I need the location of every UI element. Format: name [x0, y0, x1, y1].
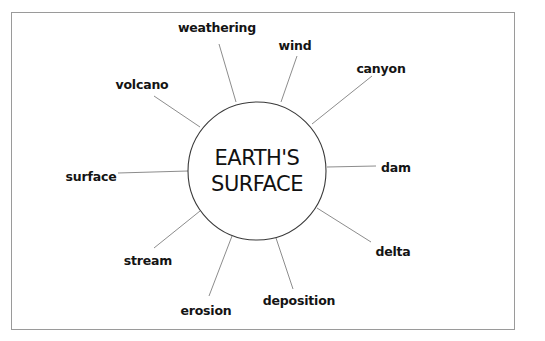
node-wind: wind — [279, 40, 312, 53]
node-dam: dam — [381, 162, 411, 175]
spoke-canyon — [312, 76, 372, 124]
node-canyon: canyon — [356, 63, 405, 76]
spoke-wind — [281, 56, 297, 102]
node-deposition: deposition — [263, 295, 335, 308]
spoke-surface — [118, 171, 188, 173]
center-title: EARTH'S SURFACE — [211, 145, 303, 198]
spoke-volcano — [154, 96, 200, 127]
node-delta: delta — [375, 246, 410, 259]
spoke-erosion — [209, 236, 232, 296]
node-stream: stream — [124, 255, 172, 268]
spoke-deposition — [276, 238, 293, 289]
spoke-delta — [317, 208, 371, 242]
node-erosion: erosion — [180, 305, 231, 318]
node-weathering: weathering — [178, 22, 256, 35]
spoke-weathering — [219, 44, 236, 102]
node-volcano: volcano — [116, 79, 169, 92]
center-title-line-2: SURFACE — [211, 171, 303, 197]
spoke-dam — [327, 166, 376, 167]
center-title-line-1: EARTH'S — [211, 145, 303, 171]
spoke-stream — [154, 211, 200, 248]
node-surface: surface — [66, 171, 117, 184]
